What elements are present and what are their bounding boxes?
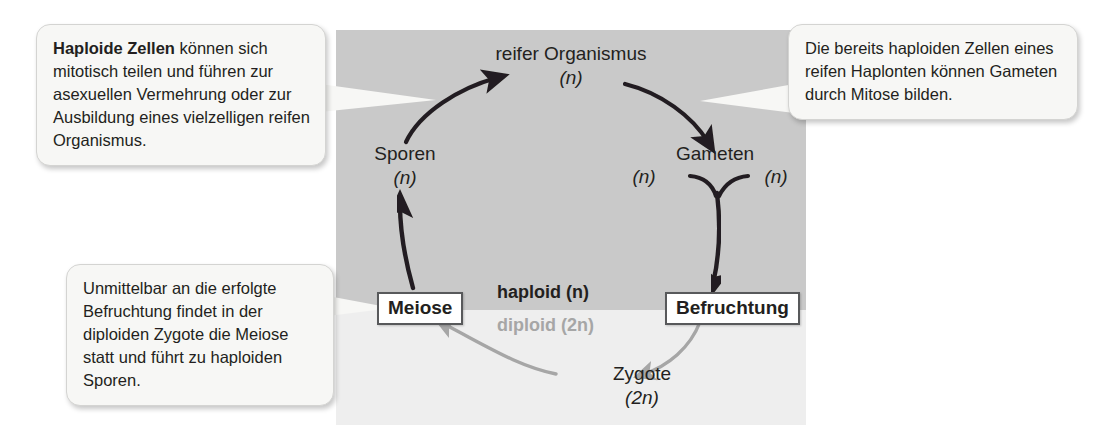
node-sporen-ploidy: (n) <box>340 166 470 190</box>
node-zygote: Zygote (2n) <box>562 362 722 410</box>
node-reifer-organismus-ploidy: (n) <box>446 66 696 90</box>
node-sporen-name: Sporen <box>374 143 435 164</box>
callout-haploide-zellen: Haploide Zellen können sich mitotisch te… <box>36 24 326 166</box>
node-gameten-ploidy-left: (n) <box>620 166 668 188</box>
callout-bereits-haploide-zellen: Die bereits haploiden Zellen eines reife… <box>788 24 1078 120</box>
callout-befruchtung-meiose: Unmittelbar an die erfolgte Befruchtung … <box>66 264 334 406</box>
process-box-meiose[interactable]: Meiose <box>377 292 463 325</box>
callout-befruchtung-meiose-text: Unmittelbar an die erfolgte Befruchtung … <box>83 279 288 389</box>
node-reifer-organismus: reifer Organismus (n) <box>446 42 696 90</box>
node-gameten-name: Gameten <box>676 143 754 164</box>
diagram-canvas: reifer Organismus (n) Sporen (n) Gameten… <box>0 0 1114 442</box>
node-gameten-ploidy-right: (n) <box>752 166 800 188</box>
zone-label-haploid: haploid (n) <box>497 282 589 303</box>
zone-label-diploid: diploid (2n) <box>497 315 594 336</box>
node-zygote-name: Zygote <box>613 363 671 384</box>
node-zygote-ploidy: (2n) <box>562 386 722 410</box>
node-reifer-organismus-name: reifer Organismus <box>496 43 647 64</box>
node-gameten: Gameten <box>620 142 810 166</box>
callout-bereits-haploide-zellen-text: Die bereits haploiden Zellen eines reife… <box>805 39 1057 103</box>
callout-haploide-zellen-lead: Haploide Zellen <box>53 39 175 57</box>
process-box-befruchtung[interactable]: Befruchtung <box>665 292 800 325</box>
node-sporen: Sporen (n) <box>340 142 470 190</box>
